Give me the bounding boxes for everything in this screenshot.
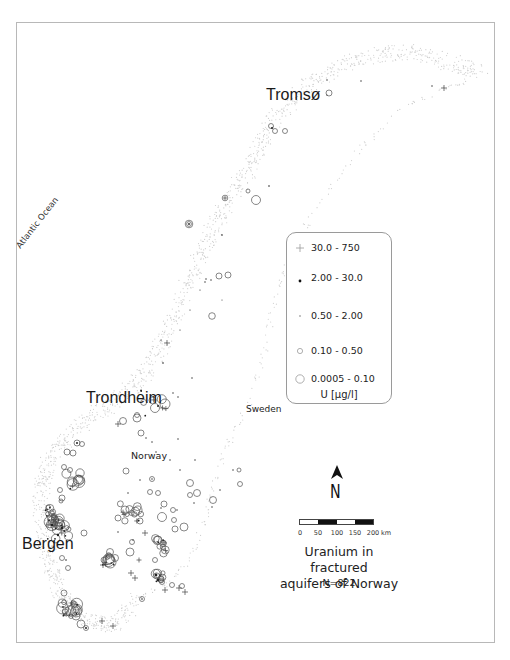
legend-label: 0.50 - 2.00 [311,309,363,323]
label-bergen: Bergen [22,535,74,553]
dot-large-icon [293,274,307,288]
scale-tick: 50 [314,529,322,537]
coastline [32,44,488,632]
map-canvas [0,0,510,660]
legend-row: 30.0 - 750 [287,241,391,255]
cross-icon [293,241,307,255]
label-norway: Norway [131,450,167,461]
sample-count: N=822 [277,577,401,588]
dot-small-icon [293,309,307,323]
label-sweden: Sweden [246,404,282,414]
scale-tick: 0 [298,529,302,537]
scale-tick: 100 [331,529,343,537]
legend-row [286,381,392,395]
legend-label: 0.10 - 0.50 [311,344,363,358]
label-trondheim: Trondheim [86,389,162,407]
legend-row: 0.10 - 0.50 [287,344,391,358]
north-label: N [330,480,341,502]
scale-tick: 200 [367,529,379,537]
circle-small-icon [293,344,307,358]
legend-label: 2.00 - 30.0 [311,271,363,285]
scale-tick: 150 [349,529,361,537]
legend-row: 0.50 - 2.00 [287,309,391,323]
legend-label: 30.0 - 750 [311,241,360,255]
label-tromso: Tromsø [266,86,321,104]
legend: 30.0 - 750 2.00 - 30.0 0.50 - 2.00 0.10 … [286,232,392,404]
title-line: Uranium in fractured [277,544,401,576]
scale-bar [299,519,374,525]
scale-unit: km [381,529,391,537]
legend-row: 2.00 - 30.0 [287,271,391,285]
